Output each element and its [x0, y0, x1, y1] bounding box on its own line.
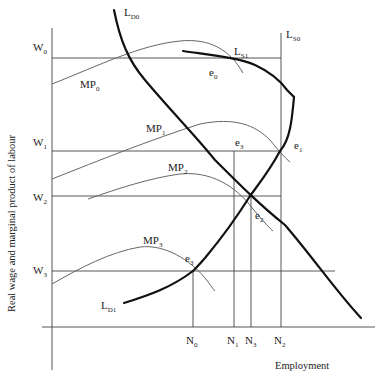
label-e2: e2	[255, 209, 264, 224]
curve-ls1	[183, 51, 294, 271]
ytick-w0: W0	[33, 41, 47, 56]
label-e0: e0	[209, 66, 218, 81]
ytick-w2: W2	[33, 191, 47, 206]
label-mp0: MP0	[80, 78, 100, 93]
xtick-n1: N1	[227, 334, 239, 349]
ytick-w1: W1	[33, 136, 47, 151]
label-ls0: LS0	[286, 28, 301, 43]
label-ld1: LD1	[101, 299, 117, 314]
ytick-w3: W3	[33, 264, 47, 279]
labour-market-diagram: W0 W1 W2 W3 N0 N1 N3 N2 LD0 LS0 LS1 LD1 …	[0, 0, 382, 381]
label-e3-lower: e3	[185, 252, 194, 267]
label-mp1: MP1	[146, 122, 166, 137]
x-axis-title: Employment	[275, 360, 329, 371]
xtick-n3: N3	[245, 334, 257, 349]
xtick-n2: N2	[274, 334, 286, 349]
label-e3-upper: e3	[235, 136, 244, 151]
label-ld0: LD0	[124, 6, 140, 21]
xtick-n0: N0	[186, 334, 198, 349]
curve-mp3	[52, 247, 215, 291]
curve-ld1	[124, 271, 193, 303]
label-e1: e1	[294, 139, 303, 154]
y-axis-title: Real wage and marginal product of labour	[6, 134, 17, 312]
label-mp2: MP2	[168, 161, 188, 176]
